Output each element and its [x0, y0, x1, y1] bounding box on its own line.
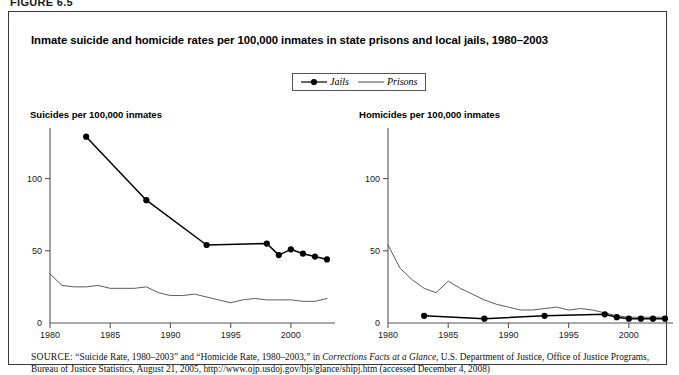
series-line-jails: [86, 137, 327, 260]
y-tick-label: 50: [370, 246, 380, 256]
x-tick-label: 1980: [40, 330, 60, 340]
chart-suicides: 05010019801985199019952000: [9, 122, 349, 352]
x-tick-label: 2000: [619, 330, 639, 340]
chart-homicides-svg: 05010019801985199019952000: [348, 122, 679, 352]
data-point-jails: [638, 316, 644, 322]
y-tick-label: 0: [37, 318, 42, 328]
x-tick-label: 1995: [559, 330, 579, 340]
legend-label-jails: Jails: [330, 76, 349, 87]
legend-marker-jails-icon: [301, 77, 327, 87]
x-tick-label: 1980: [378, 330, 398, 340]
series-line-prisons: [50, 274, 327, 303]
x-tick-label: 1990: [498, 330, 518, 340]
data-point-jails: [288, 246, 294, 252]
x-tick-label: 1990: [160, 330, 180, 340]
legend-marker-prisons-icon: [358, 77, 384, 87]
x-tick-label: 1985: [100, 330, 120, 340]
x-tick-label: 1985: [438, 330, 458, 340]
data-point-jails: [662, 316, 668, 322]
data-point-jails: [83, 134, 89, 140]
source-publication-title: Corrections Facts at a Glance: [322, 352, 436, 362]
data-point-jails: [312, 253, 318, 259]
legend-item-prisons: Prisons: [358, 76, 418, 87]
y-tick-label: 50: [32, 246, 42, 256]
legend-label-prisons: Prisons: [387, 76, 418, 87]
data-point-jails: [264, 240, 270, 246]
data-point-jails: [324, 256, 330, 262]
data-point-jails: [203, 242, 209, 248]
axis-title-homicides: Homicides per 100,000 inmates: [359, 109, 500, 120]
data-point-jails: [481, 316, 487, 322]
data-point-jails: [421, 313, 427, 319]
legend-item-jails: Jails: [301, 76, 349, 87]
data-point-jails: [541, 313, 547, 319]
chart-suicides-svg: 05010019801985199019952000: [9, 122, 349, 352]
source-text-1: “Suicide Rate, 1980–2003” and “Homicide …: [73, 352, 322, 362]
x-tick-label: 2000: [281, 330, 301, 340]
x-tick-label: 1995: [221, 330, 241, 340]
figure-label: FIGURE 6.5: [10, 0, 73, 8]
data-point-jails: [602, 311, 608, 317]
data-point-jails: [276, 252, 282, 258]
data-point-jails: [626, 316, 632, 322]
data-point-jails: [614, 314, 620, 320]
axis-title-suicides: Suicides per 100,000 inmates: [30, 109, 162, 120]
chart-legend: Jails Prisons: [292, 73, 426, 91]
chart-homicides: 05010019801985199019952000: [348, 122, 679, 352]
figure-container: Inmate suicide and homicide rates per 10…: [8, 11, 667, 365]
series-line-prisons: [388, 245, 665, 317]
source-note: SOURCE: “Suicide Rate, 1980–2003” and “H…: [31, 351, 661, 375]
y-tick-label: 100: [27, 174, 42, 184]
y-tick-label: 100: [365, 174, 380, 184]
data-point-jails: [143, 197, 149, 203]
data-point-jails: [650, 316, 656, 322]
chart-title: Inmate suicide and homicide rates per 10…: [31, 34, 548, 46]
y-tick-label: 0: [375, 318, 380, 328]
source-prefix: SOURCE:: [31, 351, 73, 362]
data-point-jails: [300, 251, 306, 257]
